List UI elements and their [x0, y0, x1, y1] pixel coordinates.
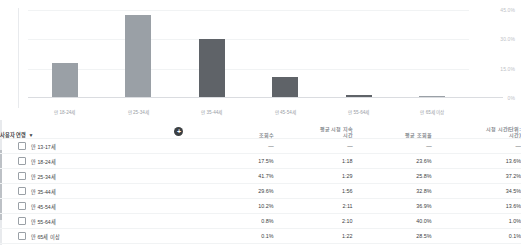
cell-spacer: [158, 154, 200, 169]
bar[interactable]: [52, 63, 78, 97]
column-header-watch-time[interactable]: 시청 시간(단위: 시간): [432, 120, 521, 139]
column-header-views-label: 조회수: [200, 132, 274, 138]
y-axis-tick-label: 30.0%: [500, 36, 515, 42]
bar[interactable]: [125, 15, 151, 97]
row-checkbox[interactable]: [18, 217, 26, 225]
cell-views: 0.1%: [200, 229, 274, 244]
bar[interactable]: [199, 39, 225, 97]
cell-age[interactable]: 만 35-44세: [0, 184, 158, 199]
column-header-avg-pct-viewed-label: 평균 조회율: [353, 132, 432, 138]
cell-age[interactable]: 만 55-64세: [0, 214, 158, 229]
table-row[interactable]: 만 45-54세10.2%2:1136.9%13.6%: [0, 199, 521, 214]
table-row[interactable]: 만 35-44세29.6%1:5632.8%34.5%: [0, 184, 521, 199]
table-row[interactable]: 만 25-34세41.7%1:2925.8%37.2%: [0, 169, 521, 184]
row-checkbox[interactable]: [18, 232, 26, 240]
bar-column[interactable]: [249, 10, 323, 97]
table-row[interactable]: 만 13-17세————: [0, 139, 521, 154]
add-metric-cell[interactable]: +: [158, 120, 200, 139]
cell-age[interactable]: 만 25-34세: [0, 169, 158, 184]
column-header-age[interactable]: 사용자 연령▼: [0, 120, 158, 139]
bar[interactable]: [346, 95, 372, 97]
cell-avg-pct-viewed: 40.0%: [353, 214, 432, 229]
cell-views: 29.6%: [200, 184, 274, 199]
age-label: 만 18-24세: [31, 158, 56, 165]
row-checkbox[interactable]: [18, 187, 26, 195]
age-label: 만 13-17세: [31, 143, 56, 150]
panel-left-edge: [0, 0, 2, 118]
column-header-avg-duration-label: 평균 시청 지속 시간: [274, 126, 353, 139]
cell-avg-pct-viewed: 28.5%: [353, 229, 432, 244]
cell-avg-pct-viewed: 23.6%: [353, 154, 432, 169]
bar-series: [28, 10, 469, 97]
age-label: 만 45-54세: [31, 203, 56, 210]
cell-watch-time: —: [432, 139, 521, 154]
table-row[interactable]: 만 55-64세0.8%2:1040.0%1.0%: [0, 214, 521, 229]
column-header-views[interactable]: 조회수: [200, 120, 274, 139]
table-header-row: 사용자 연령▼ + 조회수 평균 시청 지속 시간 평균 조회율: [0, 120, 521, 139]
cell-age[interactable]: 만 18-24세: [0, 154, 158, 169]
cell-spacer: [158, 199, 200, 214]
cell-avg-duration: 1:56: [274, 184, 353, 199]
bar-column[interactable]: [396, 10, 470, 97]
sort-descending-icon: ▼: [28, 132, 33, 138]
cell-views: 17.5%: [200, 154, 274, 169]
bar[interactable]: [272, 77, 298, 97]
cell-watch-time: 13.6%: [432, 199, 521, 214]
x-axis-tick-labels: 만 18-24세만 25-34세만 35-44세만 45-54세만 55-64세…: [28, 100, 469, 118]
bar-column[interactable]: [28, 10, 102, 97]
column-header-watch-time-label: 시청 시간(단위: 시간): [432, 126, 521, 139]
cell-spacer: [158, 184, 200, 199]
x-axis-tick-label: 만 55-64세: [322, 109, 396, 115]
cell-avg-duration: 1:29: [274, 169, 353, 184]
plus-icon[interactable]: +: [174, 127, 183, 136]
audience-data-table: 사용자 연령▼ + 조회수 평균 시청 지속 시간 평균 조회율: [0, 120, 521, 245]
cell-watch-time: 1.0%: [432, 214, 521, 229]
cell-avg-pct-viewed: —: [353, 139, 432, 154]
cell-avg-duration: 1:18: [274, 154, 353, 169]
x-axis-tick-label: 만 18-24세: [28, 109, 102, 115]
cell-watch-time: 13.6%: [432, 154, 521, 169]
chart-left-rail: [18, 8, 19, 108]
bar-column[interactable]: [322, 10, 396, 97]
table-body: 만 13-17세————만 18-24세17.5%1:1823.6%13.6%만…: [0, 139, 521, 244]
cell-avg-duration: 2:11: [274, 199, 353, 214]
cell-age[interactable]: 만 45-54세: [0, 199, 158, 214]
column-header-avg-pct-viewed[interactable]: 평균 조회율: [353, 120, 432, 139]
row-checkbox[interactable]: [18, 172, 26, 180]
cell-avg-pct-viewed: 32.8%: [353, 184, 432, 199]
age-label: 만 35-44세: [31, 188, 56, 195]
cell-age[interactable]: 만 13-17세: [0, 139, 158, 154]
row-checkbox[interactable]: [18, 142, 26, 150]
cell-avg-duration: 2:10: [274, 214, 353, 229]
x-axis-line: [28, 97, 503, 98]
bar[interactable]: [419, 96, 445, 97]
x-axis-tick-label: 만 45-54세: [249, 109, 323, 115]
cell-age[interactable]: 만 65세 이상: [0, 229, 158, 244]
age-label: 만 65세 이상: [31, 233, 60, 240]
x-axis-tick-label: 만 35-44세: [175, 109, 249, 115]
table-row[interactable]: 만 18-24세17.5%1:1823.6%13.6%: [0, 154, 521, 169]
cell-watch-time: 0.1%: [432, 229, 521, 244]
y-axis-tick-label: 45.0%: [500, 7, 515, 13]
cell-avg-duration: 1:22: [274, 229, 353, 244]
cell-spacer: [158, 169, 200, 184]
chart-plot-area: 45.0%30.0%15.0%0%: [28, 10, 469, 98]
cell-watch-time: 34.5%: [432, 184, 521, 199]
cell-views: 10.2%: [200, 199, 274, 214]
cell-avg-pct-viewed: 25.8%: [353, 169, 432, 184]
cell-views: 0.8%: [200, 214, 274, 229]
row-checkbox[interactable]: [18, 157, 26, 165]
analytics-audience-panel: 45.0%30.0%15.0%0% 만 18-24세만 25-34세만 35-4…: [0, 0, 521, 245]
bar-column[interactable]: [102, 10, 176, 97]
age-label: 만 55-64세: [31, 218, 56, 225]
column-header-avg-duration[interactable]: 평균 시청 지속 시간: [274, 120, 353, 139]
column-header-age-label: 사용자 연령: [0, 132, 26, 138]
cell-avg-pct-viewed: 36.9%: [353, 199, 432, 214]
x-axis-tick-label: 만 25-34세: [102, 109, 176, 115]
y-axis-tick-label: 15.0%: [500, 66, 515, 72]
table-row[interactable]: 만 65세 이상0.1%1:2228.5%0.1%: [0, 229, 521, 244]
cell-views: —: [200, 139, 274, 154]
row-checkbox[interactable]: [18, 202, 26, 210]
cell-spacer: [158, 214, 200, 229]
bar-column[interactable]: [175, 10, 249, 97]
